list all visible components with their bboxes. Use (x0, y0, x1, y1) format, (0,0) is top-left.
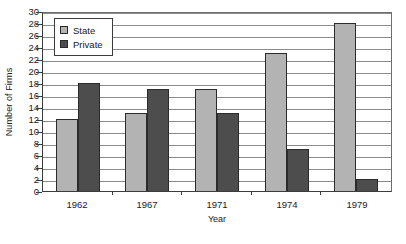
bar-private-1979 (356, 179, 378, 191)
bar-private-1962 (78, 83, 100, 191)
bar-state-1971 (195, 89, 217, 191)
x-axis-title: Year (42, 214, 392, 224)
legend-entry-private: Private (60, 37, 103, 51)
x-axis-tick-label: 1967 (112, 198, 182, 212)
bar-private-1971 (217, 113, 239, 191)
x-axis-tick-mark (181, 191, 182, 195)
y-axis-tick-mark (36, 192, 42, 193)
bar-group (113, 13, 183, 191)
x-axis-tick-label: 1971 (182, 198, 252, 212)
x-axis-tick-mark (320, 191, 321, 195)
bar-private-1967 (147, 89, 169, 191)
bar-group (182, 13, 252, 191)
legend-label: Private (73, 39, 103, 50)
y-axis-title: Number of Firms (0, 0, 18, 204)
x-axis-tick-label: 1962 (42, 198, 112, 212)
x-axis-tick-label: 1979 (322, 198, 392, 212)
bar-state-1967 (125, 113, 147, 191)
bar-state-1974 (265, 53, 287, 191)
x-axis-tick-mark (112, 191, 113, 195)
legend-label: State (73, 25, 95, 36)
bar-state-1979 (334, 23, 356, 191)
y-axis-title-text: Number of Firms (4, 68, 14, 137)
bar-group (321, 13, 391, 191)
bar-group (252, 13, 322, 191)
x-axis-title-text: Year (208, 214, 226, 224)
legend-swatch-icon (60, 26, 68, 34)
bar-private-1974 (287, 149, 309, 191)
legend-entry-state: State (60, 23, 103, 37)
x-axis-tick-label: 1974 (252, 198, 322, 212)
legend-swatch-icon (60, 40, 68, 48)
bar-chart-figure: Number of Firms 302826242220181614121086… (0, 0, 406, 244)
chart-legend: StatePrivate (54, 18, 113, 56)
bar-state-1962 (56, 119, 78, 191)
x-axis-tick-labels: 19621967197119741979 (42, 198, 392, 212)
x-axis-tick-mark (251, 191, 252, 195)
